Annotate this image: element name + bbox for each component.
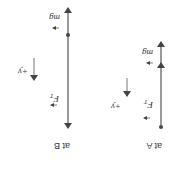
mg-label-b: mg [49, 13, 60, 23]
free-body-diagrams: FT mg +y at A FT mg +y at B [0, 0, 177, 170]
plus-y-label-b: +y [18, 67, 28, 77]
caption-b: at B [54, 141, 70, 151]
mg-label-a: mg [142, 48, 153, 58]
plus-y-label-a: +y [111, 102, 121, 112]
panel-a: FT mg +y at A [111, 42, 163, 151]
ft-label-b: FT [50, 93, 61, 104]
diagram-svg: FT mg +y at A FT mg +y at B [0, 0, 177, 170]
ft-label-a: FT [144, 99, 155, 110]
body-dot-b [66, 33, 70, 37]
caption-a: at A [146, 141, 162, 151]
panel-b: FT mg +y at B [18, 8, 70, 151]
